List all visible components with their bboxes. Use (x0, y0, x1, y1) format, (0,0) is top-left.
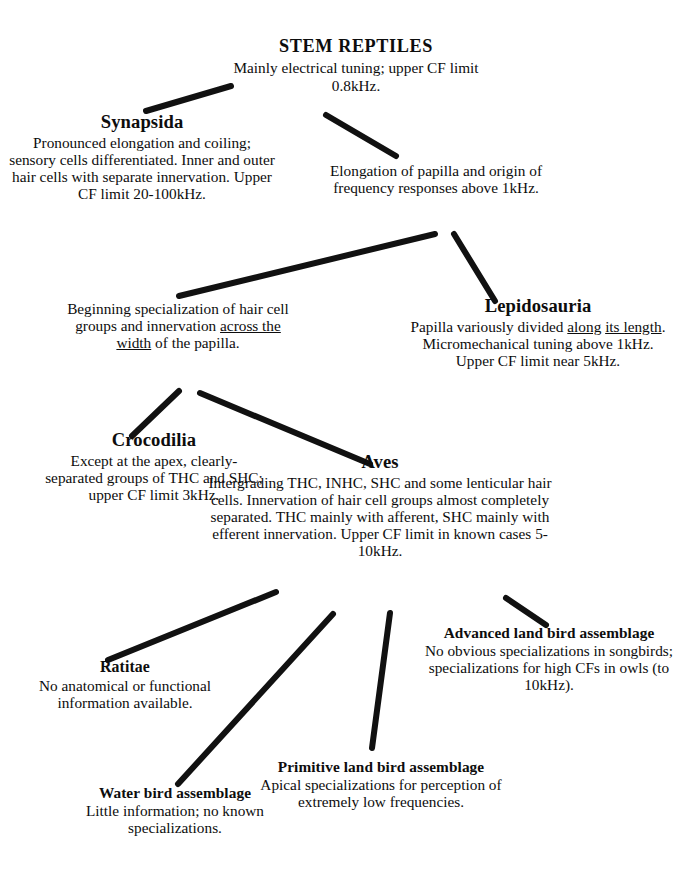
node-advanced-land-bird-assemblage: Advanced land bird assemblage No obvious… (424, 624, 674, 694)
branch-stem-to-synapsida (146, 86, 231, 111)
lepidosauria-text-underlined-1: along (567, 318, 601, 335)
branch-stem-to-elongation (326, 115, 396, 156)
node-ratitae: Ratitae No anatomical or functional info… (38, 658, 212, 711)
node-title-ratitae: Ratitae (38, 658, 212, 676)
node-body-stem-reptiles: Mainly electrical tuning; upper CF limit… (232, 59, 480, 93)
lepidosauria-text-pre: Papilla variously divided (411, 318, 568, 335)
node-water-bird-assemblage: Water bird assemblage Little information… (62, 784, 288, 836)
branch-elongation-to-beginning (179, 234, 435, 296)
lepidosauria-text-underlined-2: its length (605, 318, 662, 335)
node-body-synapsida: Pronounced elongation and coiling; senso… (8, 134, 276, 203)
node-beginning-specialization: Beginning specialization of hair cell gr… (58, 300, 298, 351)
node-aves: Aves Intergrading THC, INHC, SHC and som… (196, 452, 564, 559)
beginning-text-underlined-1: across the (220, 317, 281, 334)
node-title-synapsida: Synapsida (8, 112, 276, 133)
node-title-crocodilia: Crocodilia (42, 430, 266, 451)
node-stem-reptiles: STEM REPTILES Mainly electrical tuning; … (232, 36, 480, 94)
node-title-primitive-land-bird-assemblage: Primitive land bird assemblage (256, 758, 506, 775)
node-title-advanced-land-bird-assemblage: Advanced land bird assemblage (424, 624, 674, 641)
node-synapsida: Synapsida Pronounced elongation and coil… (8, 112, 276, 202)
beginning-text-post: of the papilla. (151, 334, 239, 351)
node-elongation-of-papilla: Elongation of papilla and origin of freq… (316, 162, 556, 196)
node-body-aves: Intergrading THC, INHC, SHC and some len… (196, 474, 564, 560)
branch-aves-to-primitive-land-bird (372, 613, 390, 748)
branch-aves-to-ratitae (108, 592, 276, 660)
node-body-elongation-of-papilla: Elongation of papilla and origin of freq… (316, 162, 556, 196)
node-body-water-bird-assemblage: Little information; no known specializat… (62, 802, 288, 836)
branch-aves-to-advanced-land-bird (506, 598, 546, 625)
node-title-aves: Aves (196, 452, 564, 473)
node-body-ratitae: No anatomical or functional information … (38, 677, 212, 711)
node-body-lepidosauria: Papilla variously divided along its leng… (404, 318, 672, 369)
node-body-primitive-land-bird-assemblage: Apical specializations for perception of… (256, 776, 506, 810)
node-body-advanced-land-bird-assemblage: No obvious specializations in songbirds;… (424, 642, 674, 693)
node-primitive-land-bird-assemblage: Primitive land bird assemblage Apical sp… (256, 758, 506, 810)
node-title-lepidosauria: Lepidosauria (404, 296, 672, 317)
node-lepidosauria: Lepidosauria Papilla variously divided a… (404, 296, 672, 369)
beginning-text-underlined-2: width (116, 334, 151, 351)
diagram-canvas: STEM REPTILES Mainly electrical tuning; … (0, 0, 676, 885)
node-title-water-bird-assemblage: Water bird assemblage (62, 784, 288, 801)
branch-elongation-to-lepidosauria (454, 234, 495, 301)
node-title-stem-reptiles: STEM REPTILES (232, 36, 480, 56)
node-body-beginning-specialization: Beginning specialization of hair cell gr… (58, 300, 298, 351)
